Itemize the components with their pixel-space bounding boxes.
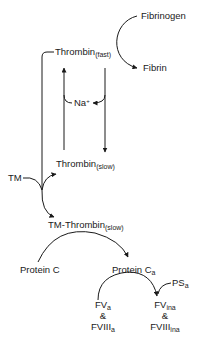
tm-to-thrombin-slow-arrow [42, 174, 56, 190]
sodium-release-arrow [93, 95, 105, 103]
ampersand-1: & [88, 310, 118, 321]
junction-to-tm-thrombin-arrow [42, 190, 54, 217]
thrombin-slow-label: Thrombin(slow) [56, 158, 115, 169]
fva-label: FVa [88, 299, 118, 310]
tm-curve [23, 178, 42, 190]
protein-ca-label: Protein Ca [112, 264, 156, 275]
sodium-label: Na+ [74, 97, 90, 108]
psa-label: PSa [172, 277, 189, 288]
tm-thrombin-slow-label: TM-Thrombin(slow) [48, 219, 124, 230]
thrombin-fast-label: Thrombin(fast) [55, 46, 111, 57]
fv-inactivation-arrow [98, 272, 157, 300]
protein-c-activation-arrow [38, 232, 128, 262]
sodium-bind-curve [64, 95, 72, 103]
tm-label: TM [8, 172, 22, 183]
fviiiina-label: FVIIIina [146, 321, 184, 332]
protein-c-label: Protein C [20, 264, 60, 275]
psa-arrow [158, 283, 171, 294]
fibrinogen-to-fibrin-arrow [117, 16, 137, 68]
fibrin-label: Fibrin [143, 62, 167, 73]
fibrinogen-label: Fibrinogen [141, 10, 186, 21]
fv-fviii-inactive-group: FVina & FVIIIina [146, 299, 184, 332]
thrombin-fast-to-tm-line [42, 52, 54, 190]
ampersand-2: & [146, 310, 184, 321]
fviiia-label: FVIIIa [88, 321, 118, 332]
fvina-label: FVina [146, 299, 184, 310]
fv-fviii-active-group: FVa & FVIIIa [88, 299, 118, 332]
